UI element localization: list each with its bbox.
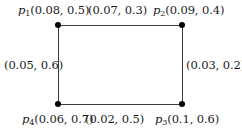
- node-symbol-p3: p3: [155, 112, 167, 126]
- node-values-p3: (0.1, 0.6): [167, 112, 219, 126]
- node-symbol-p4: p4: [22, 112, 34, 126]
- edge-p4-p3: [58, 104, 182, 105]
- node-p4: [55, 101, 61, 107]
- node-label-p2: p2(0.09, 0.4): [153, 4, 224, 20]
- edge-label-p2-p3: (0.03, 0.2): [186, 59, 242, 72]
- node-values-p2: (0.09, 0.4): [165, 3, 224, 17]
- edge-p2-p3: [182, 25, 183, 104]
- node-p3: [179, 101, 185, 107]
- graph-figure: p1(0.08, 0.5) p2(0.09, 0.4) p3(0.1, 0.6)…: [0, 0, 242, 132]
- node-label-p3: p3(0.1, 0.6): [155, 113, 219, 129]
- edge-label-p1-p2: (0.07, 0.3): [88, 4, 147, 17]
- node-label-p1: p1(0.08, 0.5): [18, 4, 89, 20]
- node-p1: [55, 22, 61, 28]
- edge-label-p4-p3: (0.02, 0.5): [85, 113, 144, 126]
- edge-label-p1-p4: (0.05, 0.6): [4, 59, 63, 72]
- node-p2: [179, 22, 185, 28]
- node-symbol-p1: p1: [18, 3, 30, 17]
- edge-p1-p2: [58, 25, 182, 26]
- node-values-p1: (0.08, 0.5): [30, 3, 89, 17]
- node-label-p4: p4(0.06, 0.7): [22, 113, 93, 129]
- node-symbol-p2: p2: [153, 3, 165, 17]
